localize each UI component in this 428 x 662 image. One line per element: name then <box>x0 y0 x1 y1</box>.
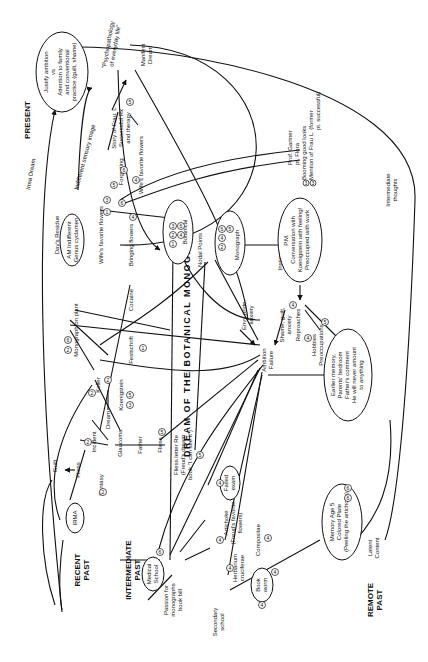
badge-3: 3 <box>104 197 111 204</box>
svg-text:and conventional: and conventional <box>64 49 70 94</box>
svg-text:Parents' bedroom: Parents' bedroom <box>337 351 343 398</box>
node-story-frau-l-1: Story of Frau. L <box>111 107 117 149</box>
label-manifest-dream-1: Manifest <box>140 43 146 66</box>
svg-text:2: 2 <box>102 489 105 495</box>
svg-text:6: 6 <box>121 200 124 206</box>
edge-flowers-gartner2 <box>120 160 300 205</box>
svg-text:6: 6 <box>180 223 183 229</box>
badge-botanical-4: 4 <box>178 232 185 239</box>
node-fliess-letter-2: (Freud's dream <box>180 435 186 476</box>
node-bringing-flowers: Bringing flowers <box>128 224 134 267</box>
svg-text:Book: Book <box>255 577 261 592</box>
svg-text:5: 5 <box>161 429 164 435</box>
node-wifes-favorite-flowers-b: Wife's favorite flowers <box>138 136 144 194</box>
node-ambition-failure-1: Ambition <box>261 348 267 371</box>
svg-text:2: 2 <box>107 377 110 383</box>
badge-festschrift-1: 1 <box>140 345 147 352</box>
badge-monograph-2: 2 <box>219 244 226 251</box>
badge-botanical-6: 6 <box>178 223 185 230</box>
svg-text:5: 5 <box>199 452 202 458</box>
edge-herbarium-compositae <box>185 548 210 560</box>
badge-fliess-letter-5: 5 <box>197 452 204 459</box>
badge-6b: 6 <box>121 167 128 174</box>
svg-text:to anything: to anything <box>358 360 364 389</box>
svg-text:1: 1 <box>142 345 145 351</box>
node-guilt: Guilt <box>52 460 58 473</box>
svg-text:4: 4 <box>221 235 224 241</box>
node-artichoke-1: Artichoke <box>223 510 229 536</box>
badge-koenigstein-3: 3 <box>127 402 134 409</box>
badge-artichoke-4: 4 <box>217 537 224 544</box>
badge-reproaches-5: 5 <box>322 319 329 326</box>
svg-text:4: 4 <box>219 537 222 543</box>
time-label-intermediate-past-2: PAST <box>133 560 142 581</box>
edge-frau-flowers <box>130 115 138 125</box>
badge-herbarium-4: 4 <box>227 565 234 572</box>
badge-5b: 5 <box>127 99 134 106</box>
svg-text:4: 4 <box>229 565 232 571</box>
svg-text:5: 5 <box>129 392 132 398</box>
badge-medschool-6: 6 <box>157 549 164 556</box>
node-envy-pride-2: anxiety <box>248 305 254 324</box>
svg-text:4: 4 <box>267 535 270 541</box>
svg-text:Koenigstein with feeling!: Koenigstein with feeling! <box>297 207 303 272</box>
svg-text:6: 6 <box>159 549 162 555</box>
badge-exam-4: 4 <box>217 480 224 487</box>
label-indifferent-sensory-image: Indifferent sensory image <box>73 123 96 190</box>
svg-text:Colored Plate: Colored Plate <box>336 503 342 540</box>
node-incident: Incident <box>91 431 97 452</box>
node-koller: Koller <box>95 377 101 392</box>
badge-monograph-4: 4 <box>219 235 226 242</box>
badge-botanical-1: 1 <box>170 241 177 248</box>
badge-5: 5 <box>111 182 118 189</box>
svg-text:practice (guilt, shame): practice (guilt, shame) <box>71 42 77 101</box>
node-fliess-a: Fliess <box>75 462 81 478</box>
badge-reproaches-4: 4 <box>305 335 312 342</box>
svg-text:6: 6 <box>67 337 70 343</box>
node-mention-frau-l-1: Mention of Frau L. (former <box>308 110 314 180</box>
node-mention-frau-l-2: pt. successful) <box>315 92 321 130</box>
edge-plant-ambition <box>70 325 260 345</box>
svg-text:2: 2 <box>67 347 70 353</box>
svg-text:1: 1 <box>106 209 109 215</box>
svg-text:3: 3 <box>106 197 109 203</box>
node-reproaches: Reproaches <box>295 309 301 341</box>
node-wifes-favorite-flowers-a: Wife's favorite flowers <box>98 206 104 264</box>
badge-plant-2: 2 <box>65 347 72 354</box>
svg-text:6: 6 <box>221 226 224 232</box>
svg-text:1: 1 <box>172 241 175 247</box>
node-monograph-on-plant: Monograph on plant <box>73 303 79 357</box>
edge-festschrift-ambition <box>100 355 260 371</box>
svg-text:Genus cyclamen: Genus cyclamen <box>73 218 79 263</box>
node-book-worm: Book worm <box>251 568 273 602</box>
badge-koenigstein-5: 5 <box>127 392 134 399</box>
node-hobbies-1: Hobbies <box>311 334 317 356</box>
node-fliess-letter-3: book "I can see it") <box>187 430 193 480</box>
badge-1: 1 <box>104 209 111 216</box>
svg-text:5: 5 <box>113 182 116 188</box>
time-label-remote-past-2: PAST <box>375 590 384 611</box>
node-justify-ambition: Justify ambition vs Attention to family … <box>36 32 88 112</box>
label-intermediate-thoughts-1: Intermediate <box>385 173 391 207</box>
node-story-frau-l-3: and therapy <box>125 112 131 144</box>
node-ambition-failure-2: Failure <box>268 350 274 369</box>
node-memory-age5: Memory Age 5 Colored Plate (Peeling the … <box>322 484 362 560</box>
node-am-indifferent: AM Indifferent Genus cyclamen <box>60 214 84 266</box>
badge-6: 6 <box>119 200 126 207</box>
node-shame-guilt-1: Shame, guilt, <box>279 307 285 342</box>
svg-text:Justify ambition: Justify ambition <box>43 51 49 92</box>
badge-reproaches-4b: 4 <box>290 302 297 309</box>
node-compositae: Compositae <box>255 523 261 556</box>
svg-text:6: 6 <box>347 485 350 491</box>
svg-text:5: 5 <box>129 99 132 105</box>
node-koenigstein: Koenigstein <box>118 379 124 410</box>
node-monograph: Monograph <box>215 211 245 275</box>
badge-koller-2: 2 <box>89 390 96 397</box>
svg-text:School: School <box>153 565 159 583</box>
node-passion-monographs-1: Passion for <box>163 585 169 615</box>
node-shame-guilt-2: anxiety <box>286 315 292 334</box>
node-artichoke-2: (Freud's favorite <box>230 501 236 545</box>
svg-text:vs: vs <box>50 69 56 75</box>
node-irma: IRMA <box>66 503 84 533</box>
node-father: Father <box>137 436 143 453</box>
